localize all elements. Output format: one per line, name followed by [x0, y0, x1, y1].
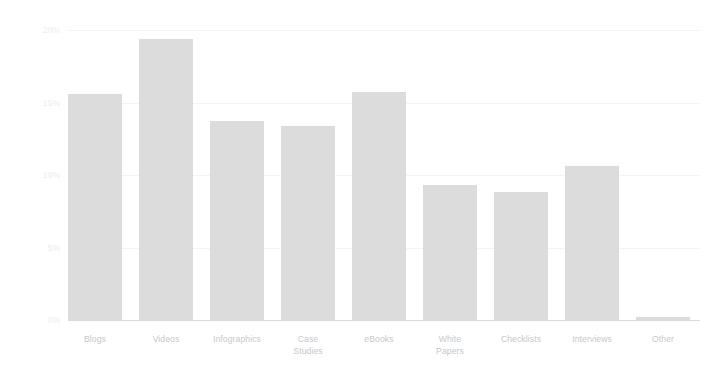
x-label-checklists-line1: Checklists	[501, 334, 541, 344]
x-label-white-papers-line2: Papers	[423, 346, 477, 358]
x-label-ebooks: eBooks	[352, 334, 406, 346]
x-axis-baseline	[68, 320, 700, 321]
bar-videos[interactable]	[139, 39, 193, 320]
x-label-case-studies-line1: Case	[298, 334, 318, 344]
x-label-videos: Videos	[139, 334, 193, 346]
y-tick-label-15: 15%	[22, 98, 60, 107]
bar-slot-other	[636, 30, 690, 320]
x-axis: Blogs Videos Infographics Case Studies e…	[68, 334, 700, 376]
bar-blogs[interactable]	[68, 94, 122, 320]
bars-layer	[68, 30, 700, 320]
bar-slot-white-papers	[423, 30, 477, 320]
bar-ebooks[interactable]	[352, 92, 406, 320]
bar-interviews[interactable]	[565, 166, 619, 320]
x-label-infographics: Infographics	[203, 334, 271, 346]
x-label-infographics-line1: Infographics	[213, 334, 261, 344]
bar-slot-ebooks	[352, 30, 406, 320]
x-label-other-line1: Other	[652, 334, 674, 344]
bar-chart: 20% 15% 10% 5% 0%	[0, 0, 717, 376]
x-label-interviews-line1: Interviews	[572, 334, 612, 344]
bar-slot-blogs	[68, 30, 122, 320]
bar-slot-infographics	[210, 30, 264, 320]
x-label-blogs-line1: Blogs	[84, 334, 106, 344]
x-label-white-papers-line1: White	[439, 334, 461, 344]
bar-slot-videos	[139, 30, 193, 320]
bar-case-studies[interactable]	[281, 126, 335, 320]
bar-checklists[interactable]	[494, 192, 548, 320]
x-label-case-studies: Case Studies	[281, 334, 335, 357]
bar-slot-case-studies	[281, 30, 335, 320]
bar-slot-interviews	[565, 30, 619, 320]
x-label-case-studies-line2: Studies	[281, 346, 335, 358]
y-tick-label-20: 20%	[22, 26, 60, 35]
bar-white-papers[interactable]	[423, 185, 477, 320]
x-label-blogs: Blogs	[68, 334, 122, 346]
bar-slot-checklists	[494, 30, 548, 320]
bar-infographics[interactable]	[210, 121, 264, 320]
y-tick-label-0: 0%	[22, 316, 60, 325]
x-label-interviews: Interviews	[561, 334, 623, 346]
x-label-videos-line1: Videos	[153, 334, 180, 344]
y-tick-label-10: 10%	[22, 171, 60, 180]
bar-other[interactable]	[636, 317, 690, 320]
y-tick-label-5: 5%	[22, 243, 60, 252]
x-label-other: Other	[636, 334, 690, 346]
x-label-ebooks-line1: eBooks	[364, 334, 393, 344]
x-label-white-papers: White Papers	[423, 334, 477, 357]
x-label-checklists: Checklists	[490, 334, 552, 346]
